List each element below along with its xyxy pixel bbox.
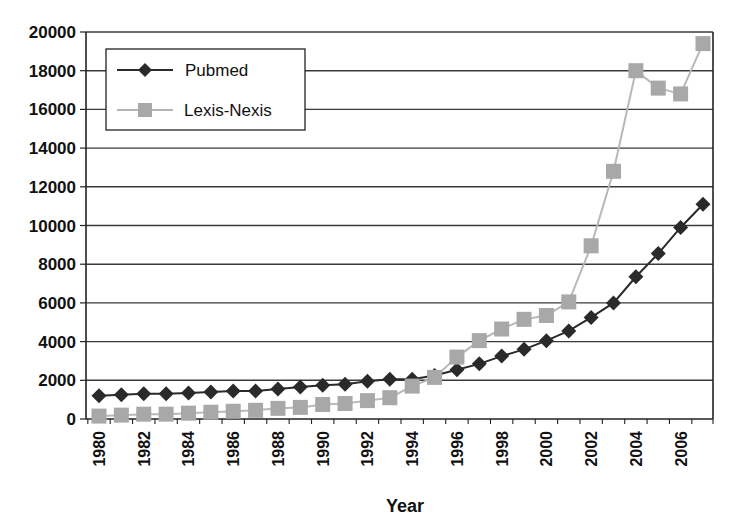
- x-tick-label: 1994: [404, 431, 421, 467]
- square-marker-icon: [114, 408, 129, 423]
- diamond-marker-icon: [293, 380, 308, 395]
- x-tick-label: 1990: [315, 431, 332, 467]
- y-tick-label: 20000: [29, 23, 76, 42]
- diamond-marker-icon: [203, 384, 218, 399]
- y-tick-label: 18000: [29, 62, 76, 81]
- square-marker-icon: [136, 407, 151, 422]
- square-marker-icon: [606, 164, 621, 179]
- square-marker-icon: [138, 103, 152, 117]
- square-marker-icon: [203, 405, 218, 420]
- diamond-marker-icon: [92, 388, 107, 403]
- diamond-marker-icon: [226, 383, 241, 398]
- y-tick-label: 16000: [29, 100, 76, 119]
- square-marker-icon: [561, 294, 576, 309]
- y-tick-label: 8000: [38, 255, 76, 274]
- y-tick-label: 0: [67, 410, 76, 429]
- square-marker-icon: [338, 396, 353, 411]
- square-marker-icon: [696, 36, 711, 51]
- y-tick-label: 6000: [38, 294, 76, 313]
- x-tick-label: 1984: [180, 431, 197, 467]
- square-marker-icon: [382, 390, 397, 405]
- x-tick-label: 2000: [538, 431, 555, 467]
- x-tick-label: 1998: [494, 431, 511, 467]
- y-tick-label: 4000: [38, 333, 76, 352]
- square-marker-icon: [628, 63, 643, 78]
- diamond-marker-icon: [248, 383, 263, 398]
- y-tick-label: 12000: [29, 178, 76, 197]
- x-tick-label: 1996: [449, 431, 466, 467]
- diamond-marker-icon: [159, 386, 174, 401]
- y-tick-label: 10000: [29, 217, 76, 236]
- square-marker-icon: [494, 322, 509, 337]
- diamond-marker-icon: [136, 386, 151, 401]
- diamond-marker-icon: [539, 333, 554, 348]
- legend: Pubmed Lexis-Nexis: [106, 49, 305, 130]
- diamond-marker-icon: [338, 377, 353, 392]
- diamond-marker-icon: [270, 382, 285, 397]
- x-axis-label: Year: [386, 496, 424, 516]
- y-axis-ticks: 0200040006000800010000120001400016000180…: [29, 23, 86, 429]
- x-tick-label: 1986: [225, 431, 242, 467]
- diamond-marker-icon: [181, 385, 196, 400]
- x-tick-label: 1988: [270, 431, 287, 467]
- y-tick-label: 2000: [38, 371, 76, 390]
- square-marker-icon: [181, 406, 196, 421]
- legend-label-lexis-nexis: Lexis-Nexis: [184, 101, 272, 120]
- x-tick-label: 1982: [136, 431, 153, 467]
- square-marker-icon: [293, 400, 308, 415]
- diamond-marker-icon: [584, 310, 599, 325]
- square-marker-icon: [405, 379, 420, 394]
- legend-label-pubmed: Pubmed: [185, 61, 248, 80]
- square-marker-icon: [539, 308, 554, 323]
- square-marker-icon: [360, 393, 375, 408]
- square-marker-icon: [159, 407, 174, 422]
- square-marker-icon: [248, 403, 263, 418]
- chart-canvas: 0200040006000800010000120001400016000180…: [0, 0, 733, 528]
- square-marker-icon: [270, 401, 285, 416]
- square-marker-icon: [449, 350, 464, 365]
- series-pubmed: [92, 197, 711, 404]
- square-marker-icon: [673, 86, 688, 101]
- line-chart: 0200040006000800010000120001400016000180…: [0, 0, 733, 528]
- square-marker-icon: [584, 238, 599, 253]
- diamond-marker-icon: [561, 323, 576, 338]
- diamond-marker-icon: [114, 387, 129, 402]
- diamond-marker-icon: [517, 342, 532, 357]
- diamond-marker-icon: [360, 374, 375, 389]
- square-marker-icon: [315, 397, 330, 412]
- diamond-marker-icon: [382, 372, 397, 387]
- square-marker-icon: [472, 333, 487, 348]
- x-tick-label: 2004: [628, 431, 645, 467]
- square-marker-icon: [92, 409, 107, 424]
- square-marker-icon: [651, 81, 666, 96]
- x-tick-label: 1980: [91, 431, 108, 467]
- x-tick-label: 2002: [583, 431, 600, 467]
- square-marker-icon: [427, 370, 442, 385]
- square-marker-icon: [517, 312, 532, 327]
- x-tick-label: 1992: [359, 431, 376, 467]
- y-tick-label: 14000: [29, 139, 76, 158]
- square-marker-icon: [226, 404, 241, 419]
- diamond-marker-icon: [472, 356, 487, 371]
- x-tick-label: 2006: [673, 431, 690, 467]
- x-axis-ticks: 1980198219841986198819901992199419961998…: [88, 419, 713, 467]
- diamond-marker-icon: [494, 349, 509, 364]
